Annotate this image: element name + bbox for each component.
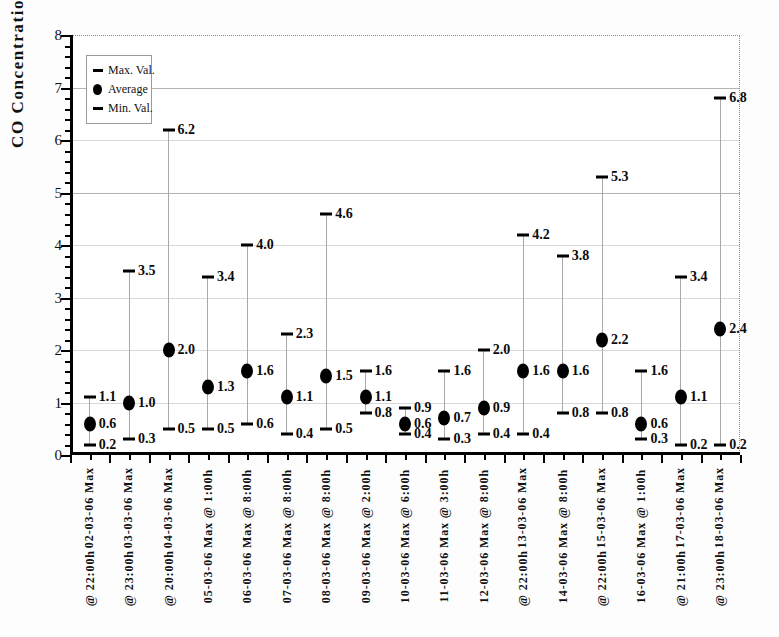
min-value-marker — [360, 412, 372, 415]
x-tick — [740, 455, 742, 463]
x-tick — [109, 455, 111, 463]
average-value-marker — [320, 369, 332, 384]
min-value-label: 0.8 — [572, 405, 590, 421]
min-value-marker — [714, 443, 726, 446]
whisker-line — [523, 235, 524, 435]
x-axis-label-line1: 10-03-06 Max @ 6:00h — [398, 469, 413, 603]
min-value-marker — [320, 427, 332, 430]
whisker-line — [680, 277, 681, 445]
max-value-label: 1.1 — [99, 389, 117, 405]
x-axis-label-line1: 09-03-06 Max @ 2:00h — [358, 469, 373, 603]
x-axis-label-line1: 12-03-06 Max @ 8:00h — [476, 469, 491, 603]
average-value-marker — [635, 416, 647, 431]
x-tick — [622, 455, 624, 463]
y-tick-major — [61, 298, 70, 300]
average-value-marker — [241, 364, 253, 379]
whisker-line — [326, 214, 327, 429]
x-tick-minor — [326, 455, 328, 460]
y-tick-major — [61, 35, 70, 37]
max-value-marker — [123, 270, 135, 273]
y-tick-label: 5 — [44, 184, 62, 201]
average-value-marker — [478, 400, 490, 415]
average-value-label: 2.0 — [178, 342, 196, 358]
y-tick-label: 7 — [44, 79, 62, 96]
max-value-label: 2.3 — [296, 326, 314, 342]
min-value-label: 0.5 — [217, 421, 235, 437]
average-value-marker — [281, 390, 293, 405]
x-tick — [385, 455, 387, 463]
x-axis-label-line2: @ 22:00h — [595, 550, 610, 606]
min-value-label: 0.8 — [611, 405, 629, 421]
x-axis-label-line2: @ 22:00h — [516, 550, 531, 606]
x-axis-label-line1: 14-03-06 Max @ 8:00h — [555, 469, 570, 603]
max-value-label: 4.0 — [256, 237, 274, 253]
max-value-label: 5.3 — [611, 169, 629, 185]
whisker-line — [483, 350, 484, 434]
y-tick-major — [61, 350, 70, 352]
max-value-marker — [675, 275, 687, 278]
average-value-label: 0.6 — [99, 416, 117, 432]
x-axis-label-line1: 07-03-06 Max @ 8:00h — [279, 469, 294, 603]
max-value-marker — [360, 370, 372, 373]
x-axis-label-line1: 18-03-06 Max — [712, 467, 727, 548]
min-value-marker — [123, 438, 135, 441]
x-axis-label-line1: 04-03-06 Max — [161, 467, 176, 548]
x-axis-label-line2: @ 20:00h — [162, 550, 177, 606]
y-axis-line — [70, 35, 73, 455]
gridline — [70, 140, 740, 141]
x-tick — [267, 455, 269, 463]
legend-item-min: Min. Val. — [92, 99, 145, 118]
x-tick — [543, 455, 545, 463]
max-value-label: 4.2 — [532, 227, 550, 243]
max-value-marker — [281, 333, 293, 336]
y-tick-label: 1 — [44, 394, 62, 411]
y-tick-label: 2 — [44, 342, 62, 359]
max-value-marker — [202, 275, 214, 278]
y-tick-major — [61, 455, 70, 457]
max-value-marker — [635, 370, 647, 373]
x-tick — [346, 455, 348, 463]
average-value-marker — [123, 395, 135, 410]
x-tick-minor — [602, 455, 604, 460]
max-value-label: 1.6 — [650, 363, 668, 379]
y-tick-major — [61, 403, 70, 405]
max-value-marker — [84, 396, 96, 399]
chart-legend: Max. Val. Average Min. Val. — [86, 55, 152, 124]
x-tick-minor — [405, 455, 407, 460]
x-tick-minor — [287, 455, 289, 460]
x-axis-label-line1: 08-03-06 Max @ 8:00h — [319, 469, 334, 603]
x-tick-minor — [366, 455, 368, 460]
min-value-label: 0.4 — [493, 426, 511, 442]
y-tick-label: 3 — [44, 289, 62, 306]
plot-frame-right — [739, 35, 740, 455]
average-value-label: 1.3 — [217, 379, 235, 395]
max-value-marker — [478, 349, 490, 352]
max-value-marker — [517, 233, 529, 236]
min-value-label: 0.5 — [335, 421, 353, 437]
whisker-line — [247, 245, 248, 424]
legend-item-max: Max. Val. — [92, 61, 145, 80]
average-value-marker — [202, 379, 214, 394]
min-value-marker — [281, 433, 293, 436]
x-tick — [149, 455, 151, 463]
max-value-marker — [557, 254, 569, 257]
average-value-label: 1.6 — [572, 363, 590, 379]
gridline — [70, 245, 740, 246]
y-tick-label: 6 — [44, 132, 62, 149]
average-value-label: 1.0 — [138, 395, 156, 411]
average-value-label: 1.1 — [375, 389, 393, 405]
chart-page: CO Concentration (ppm) 1.10.60.23.51.00.… — [0, 0, 779, 637]
min-value-marker — [517, 433, 529, 436]
y-tick-major — [61, 140, 70, 142]
max-value-label: 2.0 — [493, 342, 511, 358]
min-value-marker — [163, 427, 175, 430]
min-val-dash-icon — [92, 107, 103, 110]
average-value-marker — [596, 332, 608, 347]
y-tick-label: 4 — [44, 237, 62, 254]
max-value-label: 1.6 — [375, 363, 393, 379]
max-value-label: 3.8 — [572, 248, 590, 264]
average-value-marker — [399, 416, 411, 431]
min-value-label: 0.8 — [375, 405, 393, 421]
min-value-marker — [557, 412, 569, 415]
whisker-line — [720, 98, 721, 445]
